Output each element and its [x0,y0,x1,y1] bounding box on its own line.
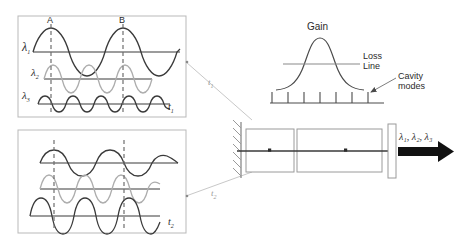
connectors [186,61,252,198]
laser-cavity [233,120,454,178]
figure-root: λ1 λ2 λ3 A B t1 t2 t1 t2 Gain Loss Line … [0,0,456,248]
gain-label: Gain [307,21,328,32]
connector-lower-dot [186,195,189,198]
marker-label-a: A [47,15,53,25]
panel-top-time-label: t1 [168,101,174,114]
cavity-modes-label: Cavity modes [398,71,425,91]
panel-top [18,16,186,117]
cavity-modes-pointer [371,78,396,92]
connector-lower [186,172,252,196]
label-lambda1-top: λ1 [22,40,30,55]
panel-bottom [18,130,186,234]
label-lambda3-top: λ3 [22,89,30,103]
output-beam-arrow [398,141,454,162]
panel-bottom-time-label: t2 [168,216,174,229]
connector-upper-dot [186,61,189,64]
cavity-mode-ticks [272,92,368,103]
connector-upper [186,62,252,120]
axis-node-left [268,149,271,152]
axis-node-right [344,149,347,152]
mirror-hatching [233,120,241,176]
diagram-canvas [0,0,456,248]
label-lambda2-top: λ2 [31,66,39,80]
connector-upper-label: t1 [208,77,214,89]
output-wavelengths-label: λ₁, λ₂, λ₃ [399,131,432,142]
output-coupler [388,124,396,178]
loss-line-label: Loss Line [363,51,382,71]
connector-lower-label: t2 [211,188,217,200]
marker-label-b: B [119,15,125,25]
